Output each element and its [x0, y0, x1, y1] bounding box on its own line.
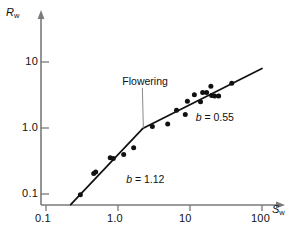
- data-point: [192, 92, 197, 97]
- data-point: [165, 121, 170, 126]
- flowering-annotation: Flowering: [122, 75, 168, 87]
- data-point: [93, 170, 98, 175]
- x-tick-label: 100: [251, 212, 270, 224]
- x-axis-title-subscript: w: [279, 208, 284, 217]
- data-point: [216, 94, 221, 99]
- data-point: [198, 99, 203, 104]
- y-axis-title-subscript: w: [14, 11, 19, 20]
- data-point: [150, 124, 155, 129]
- fit-line-group: [71, 68, 262, 204]
- data-point: [183, 112, 188, 117]
- data-point: [229, 81, 234, 86]
- y-axis-arrow-icon: [38, 10, 45, 19]
- x-tick-label: 0.1: [35, 212, 51, 224]
- x-tick-label: 10: [179, 212, 192, 224]
- y-tick-label: 10: [25, 55, 38, 67]
- y-tick-label: 1.0: [22, 121, 38, 133]
- data-point: [174, 108, 179, 113]
- data-point: [111, 156, 116, 161]
- x-tick-label: 1.0: [107, 212, 123, 224]
- slope-value: = 1.12: [132, 173, 164, 185]
- y-tick-label: 0.1: [22, 187, 38, 199]
- y-axis-title: Rw: [6, 6, 19, 18]
- y-axis-ticks: [41, 62, 49, 194]
- plot-canvas: [0, 0, 302, 230]
- slope-value: = 0.55: [202, 111, 234, 123]
- x-axis-ticks: [46, 205, 262, 211]
- data-point: [131, 145, 136, 150]
- y-axis-title-base: R: [6, 6, 14, 18]
- annotation-leader-line: [142, 88, 143, 128]
- data-point: [185, 99, 190, 104]
- data-point: [208, 84, 213, 89]
- annotation-leader-group: [142, 88, 143, 128]
- slope-annotation: b = 0.55: [196, 111, 234, 123]
- data-point: [78, 192, 83, 197]
- data-point: [121, 152, 126, 157]
- slope-annotation: b = 1.12: [126, 173, 164, 185]
- chart-figure: Log-log scatter plot of R sub w versus S…: [0, 0, 302, 230]
- data-point: [204, 90, 209, 95]
- x-axis-title: Sw: [272, 203, 285, 215]
